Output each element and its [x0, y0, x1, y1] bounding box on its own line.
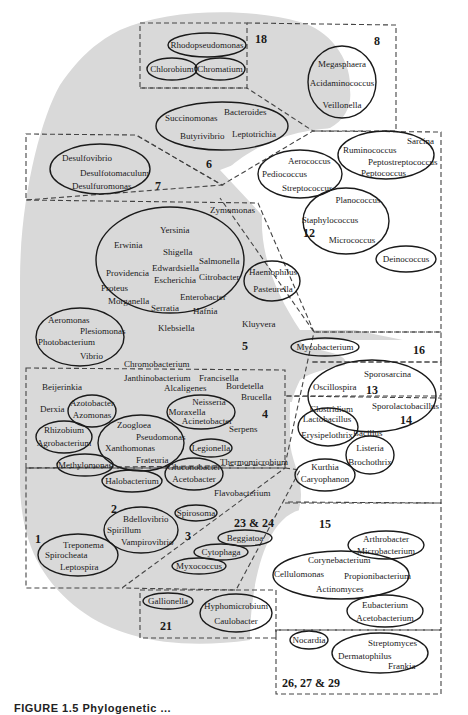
taxon-label: Zoogloea [117, 420, 151, 430]
taxon-label: Caulobacter [214, 616, 257, 626]
taxon-label: Leptotrichia [232, 129, 276, 139]
taxon-label: Micrococcus [329, 235, 376, 245]
group-number: 18 [255, 32, 267, 46]
taxon-label: Edwardsiella [152, 263, 199, 273]
group-number: 7 [155, 179, 161, 193]
taxon-label: Actinomyces [316, 584, 364, 594]
group-number: 2 [111, 502, 117, 516]
taxon-label: Desulfotomaculum [80, 168, 149, 178]
taxon-label: Cytophaga [202, 547, 241, 557]
taxon-label: Peptostreptococcus [368, 157, 438, 167]
taxon-label: Yersinia [160, 225, 190, 235]
taxon-label: Serpens [229, 424, 258, 434]
taxon-label: Shigella [163, 247, 193, 257]
taxon-label: Derxia [40, 404, 65, 414]
taxon-label: Citrobacter [199, 272, 239, 282]
group-number: 12 [303, 226, 315, 240]
taxon-label: Aerococcus [288, 156, 331, 166]
taxon-label: Butyrivibrio [180, 131, 225, 141]
taxon-label: Beijerinkia [42, 382, 82, 392]
taxon-label: Corynebacterium [308, 555, 370, 565]
taxon-label: Flavobacterium [214, 488, 270, 498]
group-number: 23 & 24 [234, 516, 274, 530]
taxon-label: Nocardia [293, 635, 326, 645]
figure-caption: FIGURE 1.5 Phylogenetic ... [14, 702, 171, 714]
taxon-label: Spirillum [107, 525, 141, 535]
taxon-label: Klebsiella [158, 323, 195, 333]
taxon-label: Streptomyces [368, 638, 417, 648]
taxon-label: Plesiomonas [80, 326, 126, 336]
taxon-label: Listeria [356, 443, 384, 453]
group-number: 1 [35, 532, 41, 546]
taxon-label: Dermatophilus [338, 651, 392, 661]
taxon-label: Enterobacter [180, 292, 226, 302]
group-number: 15 [319, 517, 331, 531]
taxon-label: Treponema [63, 540, 104, 550]
group-number: 26, 27 & 29 [282, 676, 340, 690]
taxon-label: Peptococcus [361, 168, 406, 178]
group-number: 5 [242, 339, 248, 353]
taxon-label: Pasteurella [253, 284, 293, 294]
taxon-label: Frateuria [136, 455, 168, 465]
taxon-label: Janthinobacterium [124, 373, 190, 383]
taxon-label: Acetobacterium [356, 613, 413, 623]
taxon-label: Sporosarcina [364, 369, 411, 379]
taxon-label: Zymomonas [210, 205, 255, 215]
taxon-label: Chlorobium [150, 64, 194, 74]
taxon-label: Acetobacter [172, 474, 215, 484]
taxon-label: Morganella [108, 296, 149, 306]
taxon-label: Brochothrix [348, 457, 392, 467]
taxon-label: Succinomonas [165, 113, 218, 123]
taxon-label: Beggiatoa [227, 533, 264, 543]
taxon-label: Leptospira [60, 562, 99, 572]
group-number: 6 [206, 157, 212, 171]
group-number: 3 [185, 529, 191, 543]
taxon-label: Brucella [241, 392, 272, 402]
taxon-label: Frankia [388, 661, 416, 671]
taxon-label: Staphylococcus [302, 215, 359, 225]
taxon-label: Bacteroides [224, 107, 267, 117]
taxon-label: Bordetella [226, 381, 264, 391]
taxon-label: Proteus [101, 283, 128, 293]
taxon-label: Chromatium [197, 64, 243, 74]
taxon-label: Chromobacterium [124, 359, 189, 369]
taxon-label: Haemophilus [249, 267, 297, 277]
taxon-label: Spirosoma [177, 508, 216, 518]
taxon-label: Megasphaera [318, 59, 366, 69]
taxon-label: Vampirovibrio [121, 537, 174, 547]
taxon-label: Hafnia [193, 306, 218, 316]
group-number: 21 [160, 619, 172, 633]
taxon-label: Desulfovibrio [62, 153, 112, 163]
taxon-label: Acidaminococcus [310, 78, 375, 88]
taxon-label: Erysipelothrix [301, 430, 353, 440]
taxon-label: Sporolactobacillus [372, 401, 439, 411]
taxon-label: Myxococcus [176, 561, 222, 571]
taxon-label: Acinetobacter [182, 416, 232, 426]
group-number: 4 [262, 407, 268, 421]
taxon-label: Methylomonas [58, 460, 112, 470]
taxon-label: Thermomicrobium [220, 457, 288, 467]
taxon-label: Erwinia [114, 240, 143, 250]
group-number: 13 [366, 383, 378, 397]
taxon-label: Escherichia [154, 275, 196, 285]
taxon-label: Bdellovibrio [123, 514, 169, 524]
taxon-label: Caryophanon [301, 474, 350, 484]
taxon-label: Cellulomonas [274, 569, 324, 579]
taxon-label: Gluconobacter [168, 462, 221, 472]
taxon-label: Arthrobacter [363, 534, 409, 544]
taxon-label: Oscillospira [313, 382, 357, 392]
taxon-label: Kluyvera [242, 319, 276, 329]
taxon-label: Eubacterium [362, 600, 408, 610]
taxon-label: Spirocheata [45, 550, 87, 560]
taxon-label: Ruminococcus [343, 145, 397, 155]
taxon-label: Deinococcus [383, 254, 430, 264]
taxon-label: Hyphomicrobium [204, 601, 268, 611]
taxon-label: Alcaligenes [164, 383, 207, 393]
taxon-label: Vibrio [80, 351, 103, 361]
taxon-label: Legionella [192, 443, 230, 453]
taxon-label: Gallionella [148, 596, 188, 606]
taxon-label: Salmonella [199, 256, 240, 266]
group-number: 8 [374, 34, 380, 48]
taxon-label: Veillonella [323, 100, 362, 110]
